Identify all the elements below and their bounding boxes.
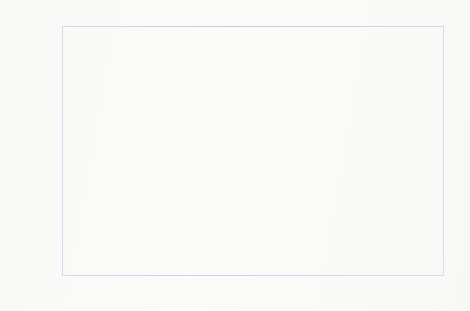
chart-figure <box>0 0 470 311</box>
bar-series-container <box>63 27 443 275</box>
y-axis-tick-labels <box>18 20 60 278</box>
x-axis-tick-labels <box>62 276 444 311</box>
plot-area <box>62 26 444 276</box>
